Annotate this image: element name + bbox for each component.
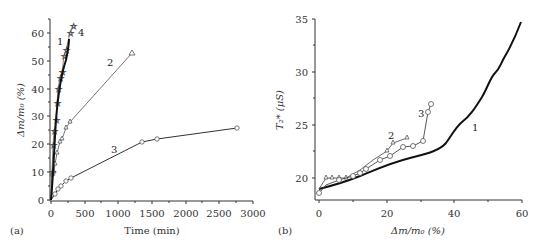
panel-a: 0 10 20 30 40 50 60 0 500 100 xyxy=(10,19,266,236)
y-axis-label-a: Δm/m₀ (%) xyxy=(15,83,26,138)
curve-label-2-b: 2 xyxy=(388,130,394,141)
y-tick-label: 35 xyxy=(295,14,308,25)
x-tick-label: 3000 xyxy=(240,208,265,219)
panel-b: 20 25 30 35 0 20 40 60 Δm/m₀ (%) T₂* (μS… xyxy=(274,14,528,236)
figure: 0 10 20 30 40 50 60 0 500 100 xyxy=(0,0,537,251)
x-tick-label: 2500 xyxy=(206,208,231,219)
y-axis-label-b: T₂* (μS) xyxy=(274,90,285,130)
curve-label-1-a: 1 xyxy=(57,36,63,47)
x-tick-label: 2000 xyxy=(173,208,198,219)
x-axis-label-b: Δm/m₀ (%) xyxy=(390,225,445,236)
panel-label-a: (a) xyxy=(10,225,24,236)
y-tick-label: 50 xyxy=(31,56,44,67)
series-3-line-a xyxy=(51,128,237,200)
panel-label-b: (b) xyxy=(278,225,292,236)
y-tick-label: 10 xyxy=(31,167,44,178)
x-axis-label-a: Time (min) xyxy=(124,225,179,236)
curve-label-4-a: 4 xyxy=(78,27,84,38)
series-1-line-b xyxy=(319,22,521,189)
x-tick-label: 0 xyxy=(316,208,322,219)
svg-text:☆: ☆ xyxy=(70,22,77,31)
x-tick-label: 500 xyxy=(75,208,94,219)
y-tick-label: 20 xyxy=(295,173,308,184)
y-tick-label: 20 xyxy=(31,139,44,150)
curve-label-3-a: 3 xyxy=(111,144,117,155)
y-tick-label: 40 xyxy=(31,84,44,95)
x-tick-label: 40 xyxy=(448,208,461,219)
series-3-markers-a xyxy=(53,126,239,196)
x-tick-label: 60 xyxy=(516,208,529,219)
y-tick-label: 60 xyxy=(31,28,44,39)
x-tick-label: 0 xyxy=(48,208,54,219)
x-tick-label: 20 xyxy=(381,208,394,219)
curve-label-2-a: 2 xyxy=(107,57,113,68)
series-3-markers-b xyxy=(317,102,434,196)
curve-label-3-b: 3 xyxy=(418,108,424,119)
x-tick-label: 1500 xyxy=(139,208,164,219)
y-tick-label: 30 xyxy=(31,111,44,122)
y-tick-label: 0 xyxy=(38,195,44,206)
curve-label-1-b: 1 xyxy=(472,122,478,133)
x-tick-label: 1000 xyxy=(105,208,130,219)
y-tick-label: 25 xyxy=(295,120,308,131)
y-tick-label: 30 xyxy=(295,67,308,78)
